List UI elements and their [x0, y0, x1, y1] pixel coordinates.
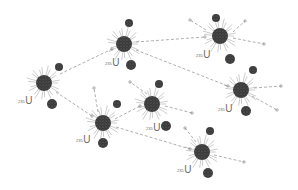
energy-ray [205, 40, 213, 44]
fission-fragment-icon [203, 168, 213, 178]
energy-ray [205, 138, 208, 144]
energy-ray [160, 101, 168, 102]
mass-number: 235 [105, 61, 112, 66]
fission-fragment-icon [225, 54, 235, 64]
energy-ray [244, 97, 248, 105]
u235-label: 235U [196, 50, 210, 60]
fission-fragment-icon [113, 100, 121, 108]
fission-fragment-icon [206, 127, 214, 135]
energy-ray [33, 70, 39, 77]
neutron-path [189, 19, 206, 30]
neutron-path [233, 20, 246, 32]
energy-ray [226, 94, 234, 98]
energy-ray [155, 111, 159, 119]
uranium-nucleus [86, 100, 121, 148]
mass-number: 235 [218, 107, 225, 112]
element-symbol: U [25, 95, 32, 106]
energy-ray [229, 81, 234, 85]
energy-ray [193, 159, 198, 168]
element-symbol: U [153, 122, 160, 133]
energy-ray [208, 140, 215, 146]
nucleus-icon [212, 28, 228, 44]
neutron-path [129, 81, 147, 94]
energy-ray [228, 92, 234, 94]
energy-ray [101, 107, 102, 115]
element-symbol: U [184, 164, 191, 175]
energy-ray [130, 32, 137, 38]
nuclei-group [27, 14, 257, 178]
energy-ray [228, 33, 236, 34]
energy-ray [204, 34, 212, 35]
element-symbol: U [225, 103, 232, 114]
fission-fragment-icon [98, 138, 108, 148]
energy-ray [32, 74, 37, 78]
energy-ray [113, 31, 119, 38]
energy-ray [88, 127, 96, 131]
energy-ray [187, 156, 195, 160]
energy-ray [42, 67, 43, 75]
energy-ray [110, 127, 118, 132]
energy-ray [140, 95, 145, 99]
energy-ray [247, 78, 254, 84]
energy-ray [248, 94, 256, 99]
u235-label: 235U [177, 165, 191, 175]
energy-ray [50, 71, 57, 77]
energy-ray [185, 147, 195, 150]
energy-ray [225, 88, 233, 89]
fission-fragment-icon [47, 99, 57, 109]
energy-ray [35, 90, 40, 99]
fission-fragment-icon [212, 14, 220, 22]
u235-label: 235U [18, 96, 32, 106]
energy-ray [98, 110, 100, 116]
fission-fragment-icon [125, 19, 133, 27]
energy-ray [39, 70, 41, 76]
energy-ray [239, 74, 240, 82]
mass-number: 235 [196, 53, 203, 58]
energy-ray [87, 121, 95, 122]
nucleus-icon [194, 144, 210, 160]
energy-ray [158, 92, 165, 98]
neutron-path [233, 38, 265, 45]
energy-ray [42, 91, 43, 99]
energy-ray [211, 43, 216, 52]
energy-ray [101, 131, 102, 139]
energy-ray [112, 35, 117, 39]
energy-ray [208, 27, 213, 31]
energy-ray [135, 99, 145, 102]
nucleus-icon [95, 115, 111, 131]
energy-ray [209, 156, 217, 161]
energy-ray [147, 91, 149, 97]
fission-fragment-icon [161, 121, 171, 131]
energy-ray [155, 90, 158, 96]
energy-ray [127, 30, 130, 36]
energy-ray [226, 24, 233, 30]
energy-ray [215, 23, 217, 29]
fission-fragment-icon [155, 80, 163, 88]
energy-ray [27, 78, 37, 81]
energy-ray [227, 40, 235, 45]
energy-ray [189, 154, 195, 156]
energy-ray [230, 77, 236, 84]
fission-fragment-icon [249, 66, 257, 74]
u235-label: 235U [105, 58, 119, 68]
mass-number: 235 [146, 126, 153, 131]
u235-label: 235U [76, 135, 90, 145]
energy-ray [223, 22, 226, 28]
neutron-path [254, 85, 282, 88]
fission-fragment-icon [126, 60, 136, 70]
nucleus-icon [36, 75, 52, 91]
neutron-path [252, 96, 278, 111]
energy-ray [141, 91, 147, 98]
neutron-path [136, 50, 229, 87]
energy-ray [119, 31, 121, 37]
u235-label: 235U [146, 123, 160, 133]
energy-ray [111, 46, 117, 48]
energy-ray [31, 85, 37, 87]
energy-ray [86, 118, 96, 121]
energy-ray [197, 139, 199, 145]
energy-ray [127, 51, 131, 59]
mass-number: 235 [76, 138, 83, 143]
element-symbol: U [203, 49, 210, 60]
energy-ray [52, 80, 60, 81]
energy-ray [107, 39, 117, 42]
